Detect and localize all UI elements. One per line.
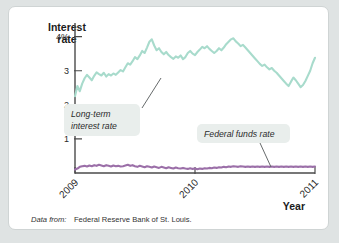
source-note: Data from: Federal Reserve Bank of St. L… [31,208,192,225]
x-tick-group: 200920102011 [57,167,321,200]
callout-federal-funds-line1: Federal funds rate [204,129,275,139]
x-axis-title: Year [283,200,305,212]
leader-line-long-term [142,78,161,108]
figure-card: Interest rate 4%321 200920102011 Long-te… [8,6,329,230]
source-note-body: Federal Reserve Bank of St. Louis. [74,215,192,224]
leader-line-federal-funds [260,143,271,167]
interest-rate-chart: Interest rate 4%321 200920102011 Long-te… [9,7,329,230]
y-tick-label: 3 [64,66,69,76]
callout-long-term-line2: interest rate [71,121,117,131]
x-tick-label: 2010 [177,176,201,200]
x-tick-label: 2009 [57,176,81,200]
callout-long-term-line1: Long-term [71,109,111,119]
source-note-prefix: Data from: [31,215,66,224]
x-tick-label: 2011 [297,176,320,199]
y-tick-label: 4% [56,32,69,42]
series-long-term-interest-rate [75,38,315,96]
